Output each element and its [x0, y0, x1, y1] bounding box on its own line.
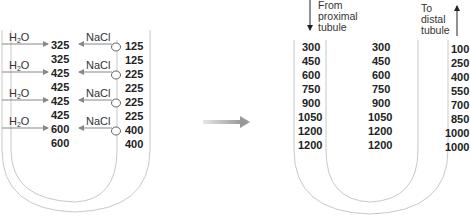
water-label: H2O [9, 116, 29, 130]
value: 1200 [368, 140, 392, 151]
value: 425 [51, 68, 69, 79]
nacl-label: NaCl [86, 88, 110, 99]
value: 400 [125, 139, 143, 150]
value: 600 [51, 138, 69, 149]
value: 900 [302, 98, 320, 109]
nacl-label: NaCl [86, 116, 110, 127]
value: 425 [51, 96, 69, 107]
value: 1050 [368, 112, 392, 123]
value: 450 [302, 56, 320, 67]
value: 1200 [368, 126, 392, 137]
transition-arrow [203, 116, 250, 128]
value: 225 [125, 97, 143, 108]
value: 400 [451, 72, 469, 83]
value: 250 [451, 58, 469, 69]
value: 425 [51, 82, 69, 93]
value: 600 [51, 124, 69, 135]
water-label: H2O [9, 60, 29, 74]
value: 1000 [445, 128, 469, 139]
value: 125 [125, 41, 143, 52]
value: 1200 [298, 126, 322, 137]
value: 600 [372, 70, 390, 81]
value: 225 [125, 111, 143, 122]
value: 600 [302, 70, 320, 81]
value: 100 [451, 44, 469, 55]
value: 1200 [298, 140, 322, 151]
pump-icons [112, 43, 121, 135]
value: 750 [372, 84, 390, 95]
value: 225 [125, 69, 143, 80]
water-label: H2O [9, 32, 29, 46]
nacl-label: NaCl [86, 60, 110, 71]
diagram-background [0, 0, 470, 216]
value: 225 [125, 83, 143, 94]
value: 900 [372, 98, 390, 109]
value: 425 [51, 110, 69, 121]
value: 550 [451, 86, 469, 97]
value: 750 [302, 84, 320, 95]
value: 300 [372, 42, 390, 53]
value: 125 [125, 55, 143, 66]
value: 450 [372, 56, 390, 67]
water-label: H2O [9, 88, 29, 102]
value: 700 [451, 100, 469, 111]
value: 325 [51, 40, 69, 51]
value: 300 [302, 42, 320, 53]
value: 1000 [445, 142, 469, 153]
value: 400 [125, 125, 143, 136]
value: 850 [451, 114, 469, 125]
nacl-label: NaCl [86, 32, 110, 43]
value: 1050 [298, 112, 322, 123]
value: 325 [51, 54, 69, 65]
